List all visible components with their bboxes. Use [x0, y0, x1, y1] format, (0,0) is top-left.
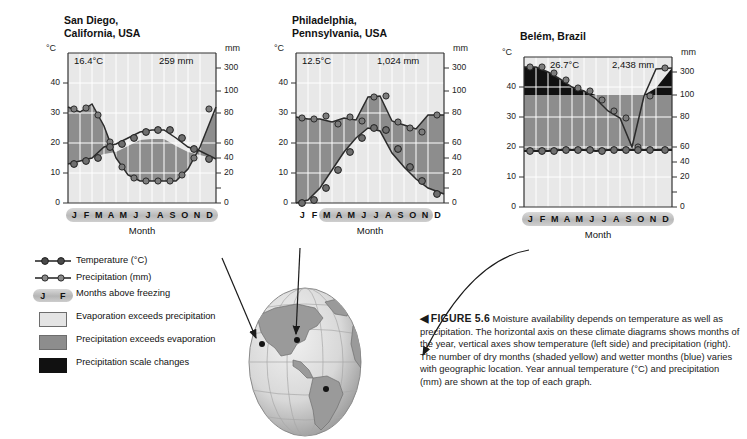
ytick-label: 20: [42, 137, 60, 147]
plot-area: °C mm 26.7°C 2,438 mm: [502, 47, 717, 227]
ytick-label: 0: [42, 197, 60, 207]
month-label: S: [622, 214, 634, 224]
y2tick-label: 40: [680, 156, 689, 166]
month-label: D: [659, 214, 671, 224]
month-label: F: [308, 210, 320, 220]
y2tick-label: 60: [452, 137, 461, 147]
marker-philadelphia: [294, 337, 300, 343]
y2tick-label: 80: [224, 107, 233, 117]
y2tick-label: 60: [680, 141, 689, 151]
marker-belem: [323, 386, 329, 392]
y2tick-label: 0: [224, 197, 229, 207]
month-axis-labels: J F M A M J J A S O N D: [68, 208, 216, 222]
month-label: M: [345, 210, 357, 220]
month-label: J: [585, 214, 597, 224]
y2tick-label: 80: [680, 111, 689, 121]
ytick-label: 10: [42, 167, 60, 177]
climate-diagram-belem: Belém, Brazil °C mm 26.7°C 2,438 mm: [502, 30, 717, 227]
marker-san-diego: [259, 341, 265, 347]
climate-diagram-philadelphia: Philadelphia, Pennsylvania, USA °C mm 12…: [274, 14, 489, 233]
chart-title: Philadelphia, Pennsylvania, USA: [292, 14, 489, 39]
month-label: M: [549, 214, 561, 224]
ytick-label: 20: [270, 137, 288, 147]
legend-label: Evaporation exceeds precipitation: [76, 311, 216, 323]
month-label: J: [524, 214, 536, 224]
ytick-label: 40: [498, 81, 516, 91]
ytick-label: 40: [270, 77, 288, 87]
month-label: F: [80, 210, 92, 220]
month-axis-labels: J F M A M J J A S O N D: [296, 208, 444, 222]
month-label: J: [370, 210, 382, 220]
ytick-label: 0: [498, 201, 516, 211]
annual-temperature: 12.5°C: [302, 55, 331, 66]
ytick-label: 10: [498, 171, 516, 181]
month-label: M: [117, 210, 129, 220]
left-axis-unit: °C: [274, 43, 284, 53]
month-label: S: [166, 210, 178, 220]
month-label: D: [431, 210, 443, 220]
ytick-label: 20: [498, 141, 516, 151]
y2tick-label: 20: [452, 167, 461, 177]
x-axis-caption: Month: [68, 225, 216, 236]
figure-caption: ◀ FIGURE 5.6 Moisture availability depen…: [420, 312, 740, 389]
legend-label: Precipitation (mm): [76, 272, 151, 284]
ytick-label: 30: [498, 111, 516, 121]
legend-label: Precipitation scale changes: [76, 357, 189, 369]
month-label: A: [105, 210, 117, 220]
month-label: S: [394, 210, 406, 220]
ytick-label: 40: [42, 77, 60, 87]
month-label: D: [203, 210, 215, 220]
y2tick-label: 100: [680, 89, 694, 99]
ytick-label: 30: [270, 107, 288, 117]
month-label: A: [561, 214, 573, 224]
ytick-label: 0: [270, 197, 288, 207]
month-label: M: [321, 210, 333, 220]
temperature-line-icon: [30, 255, 76, 266]
plot-area: °C mm 12.5°C 1,024 mm: [274, 43, 489, 233]
annual-temperature: 16.4°C: [74, 55, 103, 66]
evaporation-swatch-icon: [30, 311, 76, 327]
y2tick-label: 40: [452, 152, 461, 162]
month-label: N: [647, 214, 659, 224]
ytick-label: 10: [270, 167, 288, 177]
y2tick-label: 300: [680, 66, 694, 76]
y2tick-label: 100: [452, 85, 466, 95]
annual-temperature: 26.7°C: [550, 59, 579, 70]
months-above-freezing-icon: J F: [30, 288, 76, 302]
y2tick-label: 20: [680, 171, 689, 181]
legend-label: Temperature (°C): [76, 255, 147, 267]
annual-precipitation: 259 mm: [159, 55, 193, 66]
month-label: J: [598, 214, 610, 224]
month-label: A: [382, 210, 394, 220]
precipitation-line-icon: [30, 272, 76, 283]
y2tick-label: 100: [224, 85, 238, 95]
left-axis-unit: °C: [46, 43, 56, 53]
pill-month-label: F: [60, 291, 66, 301]
month-label: N: [191, 210, 203, 220]
month-label: J: [129, 210, 141, 220]
month-label: J: [357, 210, 369, 220]
legend-label: Months above freezing: [76, 288, 170, 300]
month-label: O: [179, 210, 191, 220]
ytick-label: 30: [42, 107, 60, 117]
annual-precipitation: 2,438 mm: [612, 59, 654, 70]
legend-label: Precipitation exceeds evaporation: [76, 334, 216, 346]
month-axis-labels: J F M A M J J A S O N D: [524, 212, 672, 226]
x-axis-caption: Month: [524, 229, 672, 240]
climate-diagram-san-diego: San Diego, California, USA °C mm 16.4°C …: [46, 14, 261, 233]
figure-number: FIGURE 5.6: [431, 312, 490, 324]
month-label: N: [419, 210, 431, 220]
legend-item-temperature: Temperature (°C): [30, 255, 245, 267]
month-label: A: [610, 214, 622, 224]
scale-change-swatch-icon: [30, 357, 76, 373]
month-label: M: [93, 210, 105, 220]
month-label: M: [573, 214, 585, 224]
y2tick-label: 300: [224, 62, 238, 72]
y2tick-label: 20: [224, 167, 233, 177]
right-axis-unit: mm: [681, 47, 696, 57]
figure-caption-body: Moisture availability depends on tempera…: [420, 313, 739, 387]
y2tick-label: 40: [224, 152, 233, 162]
month-label: J: [142, 210, 154, 220]
chart-title: San Diego, California, USA: [64, 14, 261, 39]
y2tick-label: 0: [680, 201, 685, 211]
